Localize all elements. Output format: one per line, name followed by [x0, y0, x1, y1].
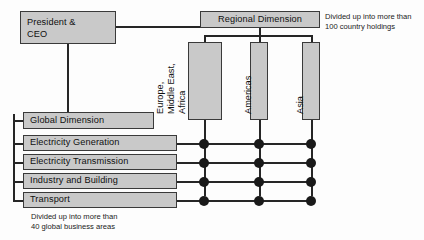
industry-and-building-label: Industry and Building [30, 175, 118, 187]
region-emea-line-2: Middle East, [166, 63, 177, 114]
matrix-dot-r4-c2 [254, 196, 264, 206]
regional-dimension-label: Regional Dimension [218, 14, 302, 26]
box-regional-dimension[interactable]: Regional Dimension [200, 11, 320, 28]
matrix-dot-r3-c2 [254, 177, 264, 187]
matrix-dot-r2-c2 [254, 158, 264, 168]
president-ceo-line-2: CEO [27, 29, 76, 41]
org-matrix-diagram: President & CEO Regional Dimension Europ… [0, 0, 424, 240]
president-ceo-line-1: President & [27, 17, 76, 29]
region-emea-line-3: Africa [177, 63, 188, 114]
connector-regional-bar [204, 35, 312, 37]
region-americas-line-1: Americas [243, 76, 254, 114]
left-bracket-stub-row-3 [13, 181, 23, 183]
matrix-dot-r1-c2 [254, 139, 264, 149]
matrix-dot-r1-c3 [306, 139, 316, 149]
transport-label: Transport [30, 194, 70, 206]
matrix-row-line-3 [177, 181, 312, 183]
connector-ceo-to-global [67, 43, 69, 114]
box-electricity-transmission[interactable]: Electricity Transmission [23, 154, 177, 170]
electricity-transmission-label: Electricity Transmission [30, 156, 128, 168]
matrix-dot-r4-c3 [306, 196, 316, 206]
note-regional-dimension: Divided up into more than 100 country ho… [325, 12, 423, 31]
matrix-dot-r2-c3 [306, 158, 316, 168]
box-global-dimension[interactable]: Global Dimension [23, 112, 154, 129]
box-region-emea[interactable]: Europe, Middle East, Africa [188, 42, 222, 120]
region-americas-label: Americas [243, 76, 254, 114]
matrix-dot-r4-c1 [199, 196, 209, 206]
box-president-ceo[interactable]: President & CEO [20, 11, 116, 44]
region-asia-line-1: Asia [295, 96, 306, 114]
matrix-dot-r2-c1 [199, 158, 209, 168]
box-region-americas[interactable]: Americas [250, 42, 268, 120]
region-emea-label: Europe, Middle East, Africa [155, 63, 188, 114]
global-dimension-label: Global Dimension [30, 115, 104, 127]
box-transport[interactable]: Transport [23, 192, 177, 208]
left-bracket-stub-row-4 [13, 200, 23, 202]
matrix-dot-r3-c1 [199, 177, 209, 187]
region-asia-label: Asia [295, 96, 306, 114]
left-bracket-spine [13, 114, 15, 201]
box-region-asia[interactable]: Asia [302, 42, 320, 120]
note-global-dimension: Divided up into more than 40 global busi… [31, 212, 191, 231]
matrix-row-line-1 [177, 143, 312, 145]
left-bracket-stub-row-2 [13, 162, 23, 164]
box-electricity-generation[interactable]: Electricity Generation [23, 135, 177, 151]
left-bracket-stub-global [13, 120, 23, 122]
matrix-row-line-2 [177, 162, 312, 164]
box-industry-and-building[interactable]: Industry and Building [23, 173, 177, 189]
connector-ceo-to-regional [115, 26, 200, 28]
matrix-dot-r3-c3 [306, 177, 316, 187]
left-bracket-stub-row-1 [13, 143, 23, 145]
matrix-dot-r1-c1 [199, 139, 209, 149]
matrix-row-line-4 [177, 200, 312, 202]
electricity-generation-label: Electricity Generation [30, 137, 120, 149]
region-emea-line-1: Europe, [155, 63, 166, 114]
